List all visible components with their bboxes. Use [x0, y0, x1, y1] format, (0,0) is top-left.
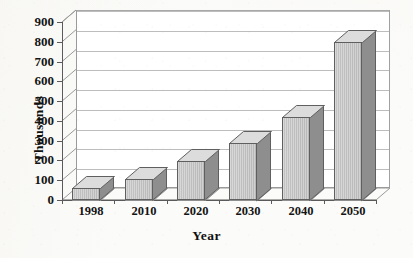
y-axis-tick-label: 0	[48, 192, 55, 208]
bar-column	[177, 161, 205, 200]
x-axis-tick-label: 2030	[236, 204, 261, 219]
bar-column	[334, 42, 362, 200]
bar-front-face	[125, 179, 153, 200]
y-axis-tick-label: 100	[35, 172, 55, 188]
x-axis-tick-label: 1998	[79, 204, 104, 219]
bar-column	[72, 188, 100, 200]
y-axis-tick-label: 200	[35, 152, 55, 168]
y-axis-tick-label: 400	[35, 113, 55, 129]
bar-column	[282, 117, 310, 200]
bar-column	[229, 143, 257, 200]
y-axis-tick-label: 300	[35, 133, 55, 149]
bar-front-face	[72, 188, 100, 200]
y-axis-tick-label: 700	[35, 54, 55, 70]
bar-column	[125, 179, 153, 200]
y-axis-tick-labels: 0100200300400500600700800900	[0, 22, 54, 200]
x-axis-tick-labels: 199820102020203020402050	[62, 204, 390, 224]
x-axis-tick-label: 2050	[341, 204, 366, 219]
plot-area	[62, 22, 376, 200]
bar-front-face	[177, 161, 205, 200]
y-axis-tick-label: 800	[35, 34, 55, 50]
bar-front-face	[334, 42, 362, 200]
bar-front-face	[282, 117, 310, 200]
bar-front-face	[229, 143, 257, 200]
chart-figure: Thousands 0100200300400500600700800900	[0, 0, 413, 258]
x-axis-title: Year	[0, 228, 413, 244]
x-axis-tick-label: 2040	[289, 204, 314, 219]
x-axis-tick-label: 2020	[184, 204, 209, 219]
x-axis-tick-label: 2010	[132, 204, 157, 219]
y-gridline	[77, 11, 389, 12]
x-axis-ticks	[62, 22, 376, 204]
y-axis-tick-label: 900	[35, 14, 55, 30]
y-axis-tick-label: 500	[35, 93, 55, 109]
y-axis-tick-label: 600	[35, 73, 55, 89]
